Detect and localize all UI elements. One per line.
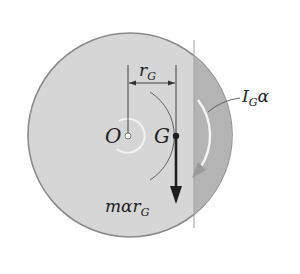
- label-force: mαrG: [105, 198, 150, 215]
- moment-main: I: [242, 86, 249, 106]
- diagram-canvas: [0, 0, 300, 274]
- label-o-text: O: [105, 124, 121, 148]
- force-main: mαr: [105, 196, 141, 216]
- force-sub: G: [141, 206, 150, 219]
- disk-edge-strip: [194, 20, 244, 260]
- disk-diagram: O G rG mαrG IGα: [0, 0, 300, 274]
- label-g: G: [154, 126, 170, 146]
- moment-tail: α: [258, 86, 269, 106]
- label-o: O: [105, 126, 121, 146]
- pivot-o-icon: [125, 133, 131, 139]
- radius-main: r: [139, 60, 147, 80]
- label-g-text: G: [154, 124, 170, 148]
- label-moment: IGα: [242, 88, 269, 105]
- moment-sub: G: [249, 96, 258, 109]
- label-radius: rG: [139, 62, 156, 79]
- radius-sub: G: [147, 70, 156, 83]
